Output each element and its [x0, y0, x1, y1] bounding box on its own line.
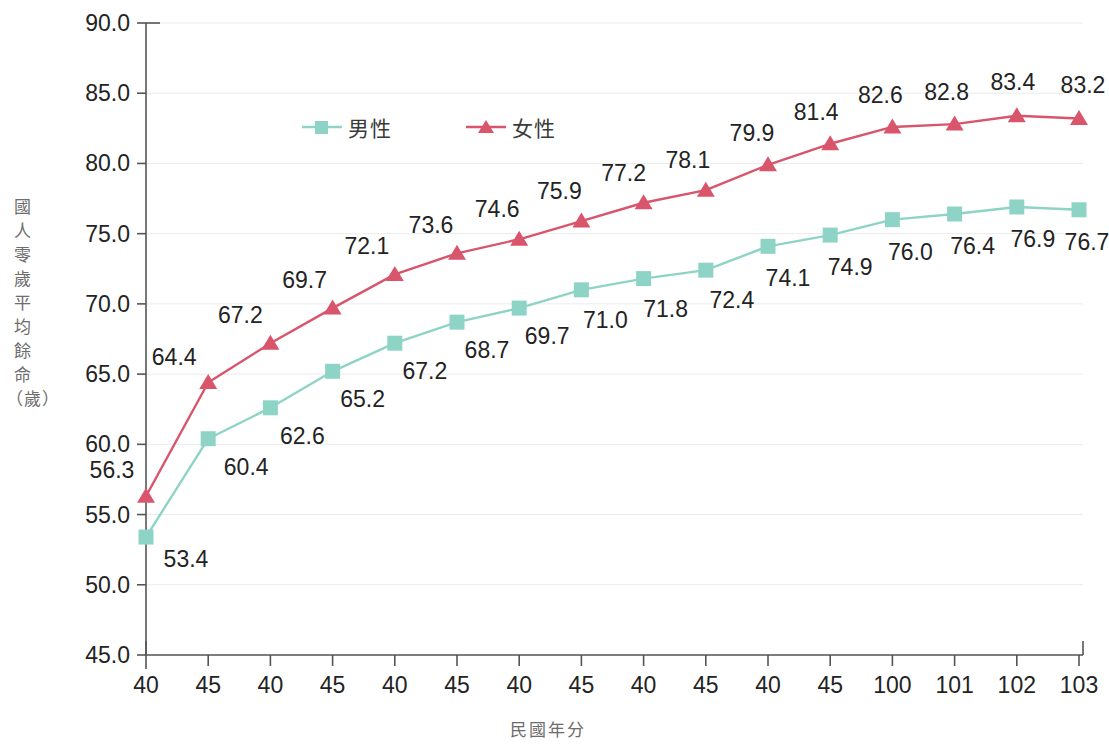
data-marker-square[interactable]: [263, 400, 278, 415]
x-axis-tick-label: 40: [258, 672, 284, 699]
data-marker-square[interactable]: [636, 271, 651, 286]
x-axis-tick-label: 40: [133, 672, 159, 699]
data-marker-triangle[interactable]: [261, 335, 279, 350]
legend-label-female: 女性: [512, 112, 556, 142]
x-axis-tick-label: 40: [382, 672, 408, 699]
data-label-女性: 82.8: [924, 79, 969, 106]
legend-item-female[interactable]: 女性: [464, 112, 556, 142]
data-label-女性: 79.9: [730, 119, 775, 146]
x-axis-tick-label: 100: [873, 672, 911, 699]
data-label-男性: 60.4: [224, 453, 269, 480]
data-label-男性: 65.2: [340, 386, 385, 413]
x-axis-tick-label: 45: [195, 672, 221, 699]
data-marker-square[interactable]: [139, 530, 154, 545]
data-label-男性: 68.7: [465, 337, 510, 364]
data-marker-square[interactable]: [1009, 199, 1024, 214]
data-label-男性: 71.0: [583, 306, 628, 333]
data-marker-square[interactable]: [201, 431, 216, 446]
data-marker-triangle[interactable]: [1008, 107, 1026, 122]
data-label-男性: 74.1: [766, 265, 811, 292]
legend-item-male[interactable]: 男性: [300, 112, 392, 142]
data-label-男性: 76.9: [1010, 225, 1055, 252]
series-line-男性: [146, 207, 1079, 537]
x-axis-tick-label: 40: [755, 672, 781, 699]
data-marker-square[interactable]: [1072, 202, 1087, 217]
x-axis-tick-label: 101: [935, 672, 973, 699]
data-marker-square[interactable]: [885, 212, 900, 227]
data-marker-triangle[interactable]: [697, 182, 715, 197]
data-label-女性: 64.4: [152, 343, 197, 370]
data-marker-square[interactable]: [512, 301, 527, 316]
x-axis-tick-label: 40: [631, 672, 657, 699]
data-label-女性: 82.6: [858, 81, 903, 108]
x-axis-tick-label: 45: [693, 672, 719, 699]
data-marker-triangle[interactable]: [137, 488, 155, 503]
data-label-男性: 62.6: [280, 422, 325, 449]
x-axis-title: 民國年分: [0, 716, 1095, 741]
data-label-女性: 75.9: [537, 178, 582, 205]
data-marker-square[interactable]: [574, 282, 589, 297]
data-label-男性: 72.4: [709, 287, 754, 314]
data-marker-square[interactable]: [387, 336, 402, 351]
data-label-女性: 69.7: [282, 267, 327, 294]
data-label-女性: 74.6: [475, 196, 520, 223]
data-label-男性: 67.2: [402, 358, 447, 385]
data-label-男性: 76.0: [888, 238, 933, 265]
data-marker-square[interactable]: [761, 239, 776, 254]
data-label-男性: 74.9: [828, 254, 873, 281]
data-label-女性: 56.3: [90, 457, 135, 484]
data-label-男性: 69.7: [525, 323, 570, 350]
data-label-男性: 53.4: [164, 546, 209, 573]
data-marker-square[interactable]: [698, 263, 713, 278]
data-marker-square[interactable]: [450, 315, 465, 330]
x-axis-tick-label: 45: [569, 672, 595, 699]
x-axis-tick-label: 45: [444, 672, 470, 699]
data-label-男性: 76.4: [950, 233, 995, 260]
data-label-男性: 76.7: [1065, 228, 1109, 255]
data-marker-square[interactable]: [325, 364, 340, 379]
x-axis-tick-label: 45: [817, 672, 843, 699]
data-label-女性: 78.1: [665, 147, 710, 174]
x-axis-tick-label: 103: [1060, 672, 1098, 699]
legend: 男性 女性: [300, 112, 556, 142]
data-label-女性: 83.2: [1061, 71, 1106, 98]
data-label-女性: 83.4: [990, 68, 1035, 95]
x-axis-tick-label: 102: [998, 672, 1036, 699]
data-label-女性: 77.2: [601, 159, 646, 186]
data-label-女性: 67.2: [218, 302, 263, 329]
data-marker-triangle[interactable]: [199, 374, 217, 389]
data-label-女性: 72.1: [344, 233, 389, 260]
data-label-女性: 73.6: [409, 212, 454, 239]
x-axis-tick-label: 45: [320, 672, 346, 699]
data-marker-triangle[interactable]: [324, 300, 342, 315]
data-marker-square[interactable]: [823, 228, 838, 243]
legend-swatch-female-icon: [464, 117, 508, 137]
data-label-女性: 81.4: [794, 98, 839, 125]
data-label-男性: 71.8: [643, 295, 688, 322]
data-marker-square[interactable]: [947, 207, 962, 222]
legend-label-male: 男性: [348, 112, 392, 142]
x-axis-tick-label: 40: [506, 672, 532, 699]
legend-swatch-male-icon: [300, 117, 344, 137]
